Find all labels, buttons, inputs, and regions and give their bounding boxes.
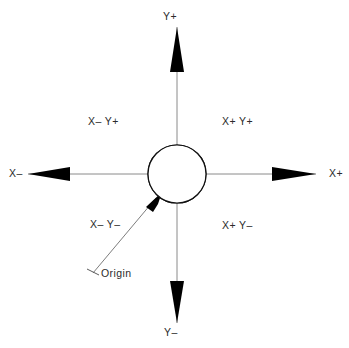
arrowhead-y-negative-icon [170, 281, 184, 323]
quadrant-label-upper-left: X– Y+ [88, 116, 119, 127]
origin-leader-line [93, 198, 156, 273]
origin-leader-tick [87, 269, 99, 275]
axis-label-y-negative: Y– [164, 327, 178, 338]
quadrant-label-lower-right: X+ Y– [222, 220, 253, 231]
arrowhead-y-positive-icon [170, 27, 184, 72]
arrowhead-x-positive-icon [272, 167, 316, 181]
axis-label-x-positive: X+ [329, 168, 343, 179]
quadrant-label-lower-left: X– Y– [90, 219, 120, 230]
origin-target-circle-stroke [148, 145, 206, 203]
arrowhead-x-negative-icon [28, 167, 70, 181]
quadrant-label-upper-right: X+ Y+ [222, 116, 253, 127]
axis-label-x-negative: X– [9, 168, 23, 179]
coordinate-quadrant-diagram: Y+ Y– X– X+ X– Y+ X+ Y+ X– Y– X+ Y– Orig… [0, 0, 349, 348]
diagram-canvas [0, 0, 349, 348]
axis-label-y-positive: Y+ [163, 11, 177, 22]
origin-callout-label: Origin [101, 268, 131, 279]
